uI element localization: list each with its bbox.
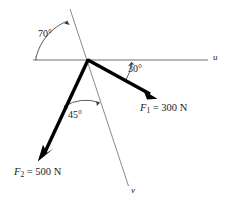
force-F1-unit: N: [180, 102, 188, 113]
angle-70-label: 70°: [38, 29, 52, 39]
u-axis-label: u: [213, 53, 218, 62]
force-vector-diagram: 70° 30° 45° u v F1 = 300 N F2 = 500 N: [0, 0, 231, 203]
angle-45-label: 45°: [68, 110, 82, 120]
force-F2-shaft: [45, 60, 88, 152]
force-F1-subscript: 1: [146, 106, 150, 115]
force-F2-subscript: 2: [20, 170, 24, 179]
v-axis-label: v: [131, 186, 135, 195]
force-F1-magnitude: 300: [161, 102, 177, 113]
force-F2-unit: N: [54, 166, 62, 177]
angle-70-arc: [36, 21, 67, 57]
angle-30-label: 30°: [128, 64, 142, 74]
force-F2-magnitude: 500: [35, 166, 51, 177]
force-F1-label: F1 = 300 N: [140, 103, 187, 114]
origin-point: [86, 58, 89, 61]
force-F2-label: F2 = 500 N: [14, 167, 61, 178]
v-axis-line: [70, 9, 129, 186]
